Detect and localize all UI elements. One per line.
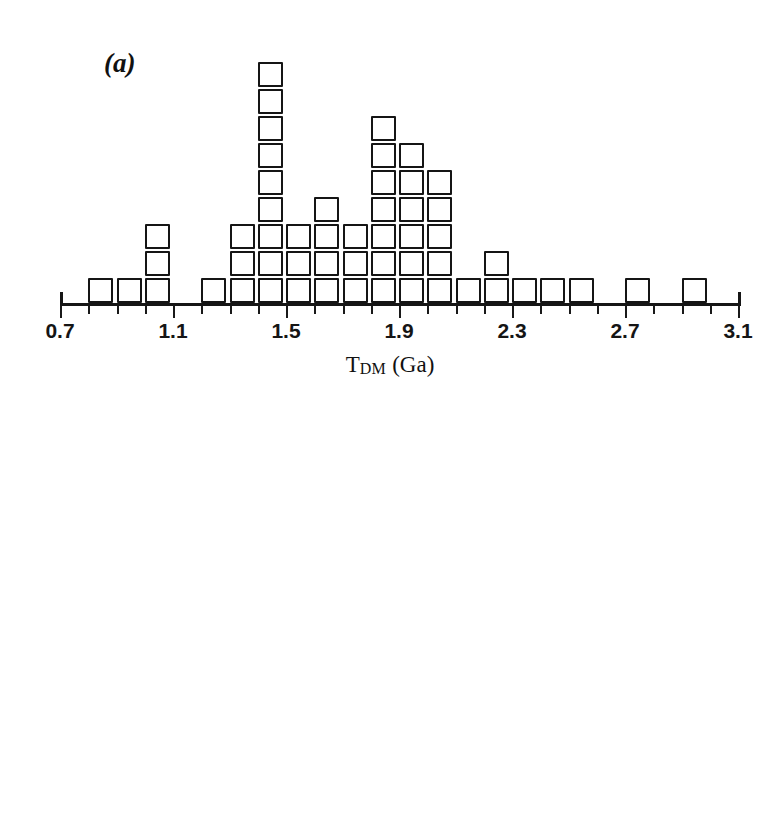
histogram-column xyxy=(427,168,455,303)
x-axis-minor-tick xyxy=(540,305,542,314)
histogram-column xyxy=(569,276,597,303)
histogram-square-marker xyxy=(314,224,339,249)
histogram-square-marker xyxy=(314,278,339,303)
x-axis-major-tick xyxy=(60,305,62,318)
histogram-column xyxy=(625,276,653,303)
histogram-column xyxy=(371,114,399,303)
histogram-square-marker xyxy=(258,197,283,222)
histogram-column xyxy=(230,222,258,303)
x-axis-tick-label: 1.1 xyxy=(158,319,187,343)
histogram-square-marker xyxy=(117,278,142,303)
panel-a-plot-area xyxy=(0,3,780,303)
x-axis-tick-label: 0.7 xyxy=(45,319,74,343)
histogram-square-marker xyxy=(456,278,481,303)
histogram-square-marker xyxy=(569,278,594,303)
x-axis-left-cap xyxy=(60,292,63,306)
x-axis-minor-tick xyxy=(456,305,458,314)
histogram-square-marker xyxy=(230,278,255,303)
x-axis-tick-label: 1.5 xyxy=(271,319,300,343)
panel-a-columns xyxy=(0,3,780,303)
histogram-square-marker xyxy=(258,278,283,303)
histogram-column xyxy=(512,276,540,303)
x-axis-minor-tick xyxy=(258,305,260,314)
histogram-square-marker xyxy=(625,278,650,303)
histogram-column xyxy=(286,222,314,303)
axis-title-subscript: DM xyxy=(360,360,386,377)
histogram-square-marker xyxy=(258,224,283,249)
histogram-column xyxy=(456,276,484,303)
histogram-square-marker xyxy=(343,251,368,276)
histogram-square-marker xyxy=(540,278,565,303)
axis-title-base: T xyxy=(346,352,360,377)
histogram-square-marker xyxy=(145,251,170,276)
x-axis-right-cap xyxy=(738,292,741,306)
x-axis-minor-tick xyxy=(484,305,486,314)
panel-b: (b) 1.21.62.02.42.8 TDM(Ga) xyxy=(0,410,780,830)
histogram-square-marker xyxy=(286,224,311,249)
histogram-square-marker xyxy=(682,278,707,303)
histogram-square-marker xyxy=(399,197,424,222)
histogram-square-marker xyxy=(399,278,424,303)
histogram-square-marker xyxy=(399,143,424,168)
histogram-column xyxy=(145,222,173,303)
x-axis-tick-label: 1.9 xyxy=(384,319,413,343)
histogram-square-marker xyxy=(427,224,452,249)
x-axis-minor-tick xyxy=(710,305,712,314)
histogram-column xyxy=(201,276,229,303)
x-axis-tick-label: 3.1 xyxy=(723,319,752,343)
histogram-square-marker xyxy=(371,143,396,168)
histogram-column xyxy=(484,249,512,303)
histogram-column xyxy=(399,141,427,303)
histogram-square-marker xyxy=(258,62,283,87)
histogram-square-marker xyxy=(258,116,283,141)
x-axis-minor-tick xyxy=(230,305,232,314)
histogram-square-marker xyxy=(88,278,113,303)
x-axis-minor-tick xyxy=(343,305,345,314)
x-axis-tick-label: 2.3 xyxy=(497,319,526,343)
histogram-square-marker xyxy=(371,224,396,249)
histogram-square-marker xyxy=(343,278,368,303)
histogram-square-marker xyxy=(314,197,339,222)
histogram-square-marker xyxy=(484,278,509,303)
x-axis-minor-tick xyxy=(569,305,571,314)
histogram-column xyxy=(117,276,145,303)
x-axis-major-tick xyxy=(738,305,740,318)
histogram-square-marker xyxy=(314,251,339,276)
histogram-square-marker xyxy=(427,251,452,276)
histogram-square-marker xyxy=(399,251,424,276)
histogram-square-marker xyxy=(145,224,170,249)
histogram-square-marker xyxy=(427,170,452,195)
x-axis-minor-tick xyxy=(371,305,373,314)
x-axis-major-tick xyxy=(625,305,627,318)
histogram-square-marker xyxy=(371,197,396,222)
histogram-square-marker xyxy=(371,278,396,303)
axis-title-unit: (Ga) xyxy=(392,352,434,377)
histogram-square-marker xyxy=(145,278,170,303)
panel-a-axis-title: TDM(Ga) xyxy=(0,352,780,378)
histogram-square-marker xyxy=(286,251,311,276)
histogram-column xyxy=(258,60,286,303)
histogram-column xyxy=(343,222,371,303)
histogram-square-marker xyxy=(371,251,396,276)
histogram-column xyxy=(682,276,710,303)
x-axis-minor-tick xyxy=(201,305,203,314)
histogram-square-marker xyxy=(427,197,452,222)
histogram-square-marker xyxy=(230,251,255,276)
histogram-square-marker xyxy=(399,224,424,249)
histogram-square-marker xyxy=(399,170,424,195)
x-axis-minor-tick xyxy=(314,305,316,314)
histogram-column xyxy=(540,276,568,303)
histogram-square-marker xyxy=(512,278,537,303)
histogram-square-marker xyxy=(427,278,452,303)
histogram-square-marker xyxy=(258,89,283,114)
histogram-square-marker xyxy=(286,278,311,303)
histogram-square-marker xyxy=(230,224,255,249)
x-axis-major-tick xyxy=(286,305,288,318)
histogram-square-marker xyxy=(201,278,226,303)
figure-page: (a) 0.71.11.51.92.32.73.1 TDM(Ga) (b) 1.… xyxy=(0,0,780,830)
x-axis-major-tick xyxy=(399,305,401,318)
x-axis-major-tick xyxy=(173,305,175,318)
histogram-square-marker xyxy=(258,143,283,168)
x-axis-minor-tick xyxy=(145,305,147,314)
x-axis-minor-tick xyxy=(88,305,90,314)
